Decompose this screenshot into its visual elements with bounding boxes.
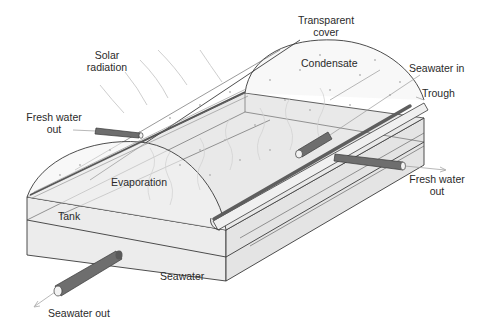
label-condensate: Condensate	[301, 57, 358, 69]
label-fresh-water-out-left-2: out	[47, 123, 62, 135]
label-solar-radiation-1: Solar	[95, 49, 120, 61]
label-seawater-in: Seawater in	[409, 62, 465, 74]
label-seawater: Seawater	[160, 270, 205, 282]
label-trough: Trough	[422, 87, 455, 99]
label-tank: Tank	[58, 210, 81, 222]
label-fresh-water-out-right-2: out	[430, 185, 445, 197]
label-fresh-water-out-right-1: Fresh water	[409, 173, 465, 185]
fresh-water-out-pipe-left	[73, 128, 143, 138]
label-seawater-out: Seawater out	[48, 307, 110, 319]
label-evaporation: Evaporation	[111, 176, 167, 188]
label-solar-radiation-2: radiation	[87, 61, 127, 73]
solar-still-diagram: Solar radiation Transparent cover Conden…	[0, 0, 483, 331]
label-transparent-cover-2: cover	[313, 26, 339, 38]
label-transparent-cover-1: Transparent	[298, 14, 354, 26]
transparent-cover-back	[245, 40, 424, 100]
label-fresh-water-out-left-1: Fresh water	[26, 111, 82, 123]
